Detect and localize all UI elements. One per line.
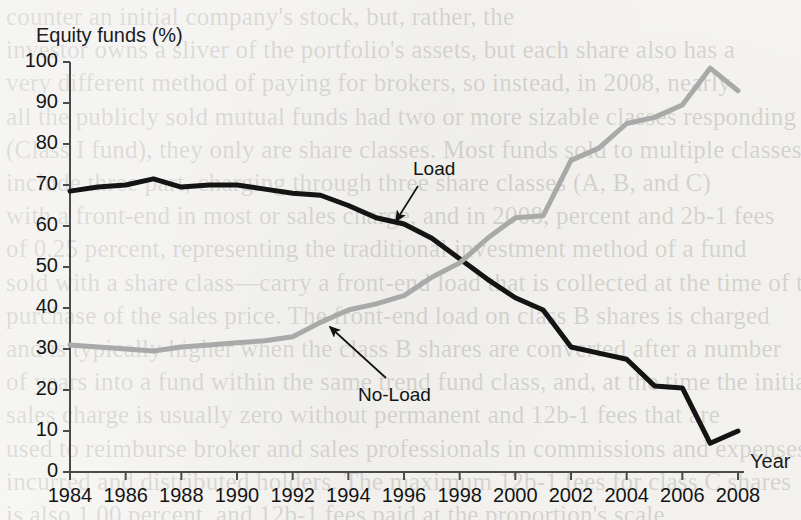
- y-tick-label-80: 80: [0, 131, 58, 154]
- y-tick-label-90: 90: [0, 90, 58, 113]
- annotation-arrow-no-load: [330, 327, 386, 378]
- y-tick-label-0: 0: [0, 459, 58, 482]
- y-tick-label-40: 40: [0, 295, 58, 318]
- y-tick-label-60: 60: [0, 213, 58, 236]
- series-label-load: Load: [413, 158, 455, 180]
- series-label-no-load: No-Load: [358, 384, 431, 406]
- y-tick-label-30: 30: [0, 336, 58, 359]
- chart-axes: [63, 62, 744, 480]
- annotation-arrow-load: [396, 186, 418, 221]
- y-tick-label-100: 100: [0, 49, 58, 72]
- y-axis-title: Equity funds (%): [36, 24, 183, 47]
- y-tick-label-20: 20: [0, 377, 58, 400]
- y-tick-label-50: 50: [0, 254, 58, 277]
- x-axis-title: Year: [750, 450, 790, 473]
- line-chart: [0, 0, 801, 520]
- figure-page: counter an initial company's stock, but,…: [0, 0, 801, 520]
- y-tick-label-10: 10: [0, 418, 58, 441]
- y-tick-label-70: 70: [0, 172, 58, 195]
- x-tick-label-2008: 2008: [698, 484, 778, 507]
